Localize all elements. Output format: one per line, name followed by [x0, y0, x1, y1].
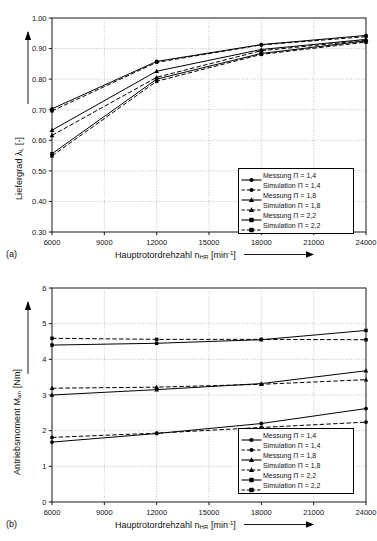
legend-symbol-circle [241, 431, 262, 441]
y-tick-label: 4 [42, 355, 46, 364]
panel-tag-a: (a) [6, 249, 17, 259]
figure-container: 6000900012000150001800021000240000.300.4… [0, 0, 377, 541]
legend-symbol-circle [241, 171, 262, 181]
data-point-marker-square [364, 40, 367, 43]
x-tick-label: 21000 [303, 508, 324, 517]
legend-label: Simulation Π = 1,8 [262, 201, 320, 211]
data-point-marker-square [50, 343, 53, 346]
x-axis-label-b: Hauptrotordrehzahl nHR [min-1] [115, 519, 314, 531]
y-tick-label: 5 [42, 319, 46, 328]
y-tick-label: 6 [42, 284, 46, 293]
x-tick-label: 6000 [44, 508, 61, 517]
data-point-marker-circle [50, 436, 54, 440]
legend-item: Messung Π = 1,8 [241, 451, 350, 461]
legend-item: Messung Π = 2,2 [241, 211, 350, 221]
y-tick-label: 2 [42, 426, 46, 435]
legend-label: Simulation Π = 1,8 [262, 461, 320, 471]
data-point-marker-square [50, 337, 53, 340]
legend-symbol-square [241, 481, 262, 491]
legend-label: Messung Π = 1,8 [262, 451, 316, 461]
x-tick-label: 9000 [96, 508, 113, 517]
data-point-marker-circle [155, 60, 159, 64]
legend-label: Messung Π = 1,4 [262, 171, 316, 181]
y-axis-arrow [25, 301, 31, 374]
y-tick-label: 0.30 [32, 228, 47, 237]
data-point-marker-square [364, 329, 367, 332]
legend-item: Messung Π = 1,4 [241, 171, 350, 181]
y-tick-label: 0.90 [32, 44, 47, 53]
y-tick-label: 0.80 [32, 75, 47, 84]
legend-symbol-circle [241, 441, 262, 451]
x-tick-label: 15000 [199, 508, 220, 517]
legend-symbol-triangle [241, 461, 262, 471]
data-point-marker-circle [155, 431, 159, 435]
data-point-marker-square [260, 338, 263, 341]
x-tick-label: 9000 [96, 238, 113, 247]
legend-symbol-square [241, 211, 262, 221]
legend-symbol-square [241, 471, 262, 481]
y-tick-label: 0.60 [32, 136, 47, 145]
legend-label: Messung Π = 2,2 [262, 471, 316, 481]
y-tick-label: 1 [42, 462, 46, 471]
legend-item: Simulation Π = 1,8 [241, 461, 350, 471]
x-tick-label: 21000 [303, 238, 324, 247]
legend-label: Simulation Π = 1,4 [262, 441, 320, 451]
y-axis-label-b: Antriebsmoment Man [Nm] [12, 369, 22, 475]
x-axis-arrow [244, 250, 314, 261]
data-point-marker-circle [50, 109, 54, 113]
legend-item: Messung Π = 2,2 [241, 471, 350, 481]
chart-panel-b: 6000900012000150001800021000240000123456… [0, 270, 377, 540]
y-tick-label: 1.00 [32, 14, 47, 23]
legend-b: Messung Π = 1,4Simulation Π = 1,4Messung… [238, 428, 354, 494]
data-point-marker-circle [50, 440, 54, 444]
data-point-marker-square [155, 342, 158, 345]
data-point-marker-square [260, 53, 263, 56]
x-tick-label: 24000 [356, 508, 377, 517]
y-axis-arrow [25, 31, 31, 104]
antriebsmoment-chart: 6000900012000150001800021000240000123456 [0, 270, 377, 540]
x-tick-label: 12000 [146, 508, 167, 517]
legend-label: Messung Π = 1,8 [262, 191, 316, 201]
data-point-marker-square [50, 154, 53, 157]
y-tick-label: 0.70 [32, 106, 47, 115]
y-tick-label: 3 [42, 391, 46, 400]
data-point-marker-square [155, 80, 158, 83]
chart-panel-a: 6000900012000150001800021000240000.300.4… [0, 0, 377, 270]
legend-item: Simulation Π = 1,4 [241, 441, 350, 451]
legend-label: Messung Π = 2,2 [262, 211, 316, 221]
data-point-marker-circle [364, 420, 368, 424]
data-point-marker-square [155, 338, 158, 341]
data-point-marker-circle [259, 43, 263, 47]
legend-symbol-triangle [241, 201, 262, 211]
y-tick-label: 0.40 [32, 197, 47, 206]
x-tick-label: 6000 [44, 238, 61, 247]
panel-tag-b: (b) [6, 519, 17, 529]
x-tick-label: 24000 [356, 238, 377, 247]
legend-label: Simulation Π = 1,4 [262, 181, 320, 191]
legend-label: Simulation Π = 2,2 [262, 221, 320, 231]
x-tick-label: 12000 [146, 238, 167, 247]
data-point-marker-circle [259, 422, 263, 426]
data-point-marker-circle [364, 407, 368, 411]
legend-item: Simulation Π = 2,2 [241, 481, 350, 491]
legend-item: Simulation Π = 1,8 [241, 201, 350, 211]
legend-item: Messung Π = 1,8 [241, 191, 350, 201]
legend-label: Simulation Π = 2,2 [262, 481, 320, 491]
y-tick-label: 0.50 [32, 167, 47, 176]
legend-label: Messung Π = 1,4 [262, 431, 316, 441]
legend-symbol-triangle [241, 451, 262, 461]
legend-symbol-circle [241, 181, 262, 191]
x-tick-label: 18000 [251, 238, 272, 247]
legend-item: Messung Π = 1,4 [241, 431, 350, 441]
y-tick-label: 0 [42, 498, 46, 507]
legend-a: Messung Π = 1,4Simulation Π = 1,4Messung… [238, 168, 354, 234]
legend-item: Simulation Π = 2,2 [241, 221, 350, 231]
legend-symbol-square [241, 221, 262, 231]
x-axis-label-a: Hauptrotordrehzahl nHR [min-1] [115, 249, 314, 261]
legend-symbol-triangle [241, 191, 262, 201]
x-tick-label: 15000 [199, 238, 220, 247]
x-axis-arrow [244, 520, 314, 531]
x-tick-label: 18000 [251, 508, 272, 517]
data-point-marker-square [364, 338, 367, 341]
legend-item: Simulation Π = 1,4 [241, 181, 350, 191]
